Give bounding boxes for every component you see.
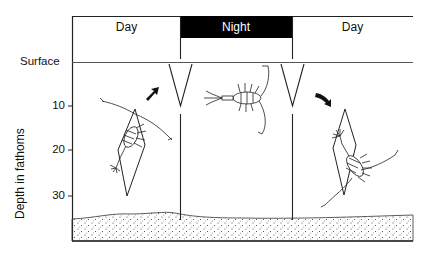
depth-tick-10: 10 [35,99,65,111]
copepod-right-icon [321,129,398,207]
period-label-day-2: Day [292,17,413,38]
migration-diagram [0,0,437,255]
depth-tick-30: 30 [35,189,65,201]
depth-ticks [68,106,72,196]
copepod-night-icon [204,66,269,134]
period-dividers [181,16,293,220]
arrow-up-icon [146,87,159,101]
right-range-diamond [333,109,356,195]
frame [72,16,413,241]
left-range-diamond [118,109,145,196]
seabed-sand [72,212,413,241]
arrow-down-icon [315,93,331,107]
surface-label: Surface [20,55,60,67]
copepod-left-icon [100,98,172,173]
depth-tick-20: 20 [35,143,65,155]
period-label-day-1: Day [73,17,180,38]
y-axis-label: Depth in fathoms [13,128,27,219]
period-label-night: Night [180,17,292,38]
